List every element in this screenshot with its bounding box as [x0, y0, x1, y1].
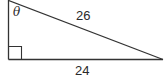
hypotenuse-label: 26 — [76, 9, 90, 22]
angle-theta-label: θ — [13, 6, 20, 18]
base-label: 24 — [75, 64, 89, 77]
right-angle-marker — [9, 47, 22, 60]
